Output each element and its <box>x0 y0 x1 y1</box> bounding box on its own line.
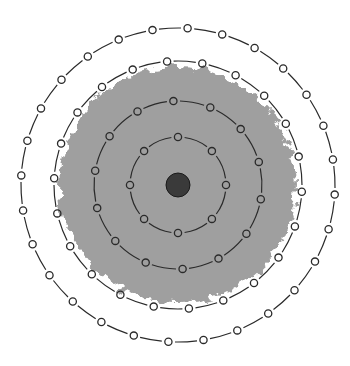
orbit-dash <box>22 147 26 169</box>
orbit-dash <box>55 150 59 172</box>
orbit-dash <box>297 198 301 220</box>
orbit-dash <box>35 250 46 269</box>
electron-node <box>282 120 289 127</box>
orbit-dash <box>175 341 197 342</box>
electron-node <box>275 254 282 261</box>
electron-node <box>200 336 207 343</box>
orbit-dash <box>326 132 332 153</box>
orbit-dash <box>66 60 83 75</box>
electron-node <box>184 25 191 32</box>
nucleus-core <box>166 173 190 197</box>
orbit-dash <box>59 220 67 241</box>
electron-node <box>164 58 171 65</box>
electron-node <box>265 310 272 317</box>
electron-node <box>220 297 227 304</box>
electron-node <box>18 172 25 179</box>
orbit-dash <box>29 114 38 134</box>
orbit-dash <box>78 306 96 319</box>
electron-node <box>280 65 287 72</box>
electron-node <box>29 241 36 248</box>
orbit-dash <box>210 333 231 339</box>
orbit-dash <box>196 303 218 308</box>
electron-node <box>58 76 65 83</box>
electron-node <box>219 31 226 38</box>
orbit-dash <box>140 337 162 341</box>
electron-node <box>37 105 44 112</box>
orbit-dash <box>125 31 146 37</box>
electron-node <box>24 137 31 144</box>
electron-node <box>232 72 239 79</box>
orbit-dash <box>288 73 303 90</box>
electron-node <box>250 279 257 286</box>
electron-node <box>295 153 302 160</box>
nucleus <box>166 173 190 197</box>
electron-node <box>51 175 58 182</box>
electron-node <box>150 303 157 310</box>
orbit-dash <box>318 236 327 256</box>
electron-node <box>117 291 124 298</box>
orbit-dash <box>243 317 262 328</box>
orbit-dash <box>260 51 278 64</box>
orbit-dash <box>209 65 230 72</box>
orbit-dash <box>21 182 22 204</box>
electron-node <box>311 258 318 265</box>
orbit-dash <box>24 217 30 238</box>
electron-node <box>20 207 27 214</box>
electron-node <box>251 44 258 51</box>
orbit-dash <box>139 62 161 67</box>
electron-node <box>58 140 65 147</box>
diagram-canvas <box>0 0 350 366</box>
orbit-dash <box>107 325 127 334</box>
atom-diagram <box>0 0 350 366</box>
orbit-dash <box>54 185 56 207</box>
electron-node <box>74 109 81 116</box>
electron-node <box>69 298 76 305</box>
electron-node <box>98 83 105 90</box>
orbit-dash <box>300 163 302 185</box>
electron-node <box>303 91 310 98</box>
electron-node <box>129 66 136 73</box>
electron-node <box>67 243 74 250</box>
orbit-dash <box>53 281 68 298</box>
electron-node <box>84 53 91 60</box>
electron-node <box>331 191 338 198</box>
electron-node <box>46 272 53 279</box>
orbit-dash <box>274 295 291 310</box>
electron-node <box>149 27 156 34</box>
orbit-dash <box>299 267 312 285</box>
electron-node <box>298 188 305 195</box>
orbit-dash <box>194 29 216 33</box>
orbit-dash <box>159 28 181 29</box>
electron-node <box>165 338 172 345</box>
electron-node <box>130 332 137 339</box>
orbit-dash <box>160 308 182 309</box>
electron-node <box>88 271 95 278</box>
orbit-dash <box>334 166 335 188</box>
electron-node <box>185 305 192 312</box>
electron-node <box>320 122 327 129</box>
orbit-dash <box>310 100 321 119</box>
electron-node <box>291 223 298 230</box>
orbit-dash <box>174 61 196 62</box>
orbit-dash <box>93 42 112 53</box>
electron-node <box>261 92 268 99</box>
electron-node <box>54 210 61 217</box>
orbit-dash <box>289 130 297 151</box>
electron-node <box>291 287 298 294</box>
electron-node <box>329 156 336 163</box>
electron-node <box>325 226 332 233</box>
orbit-dash <box>330 201 334 223</box>
electron-node <box>115 36 122 43</box>
electron-node <box>234 327 241 334</box>
electron-node <box>98 318 105 325</box>
orbit-dash <box>126 298 147 305</box>
electron-node <box>199 60 206 67</box>
orbit-dash <box>229 36 249 45</box>
orbit-dash <box>44 85 57 103</box>
